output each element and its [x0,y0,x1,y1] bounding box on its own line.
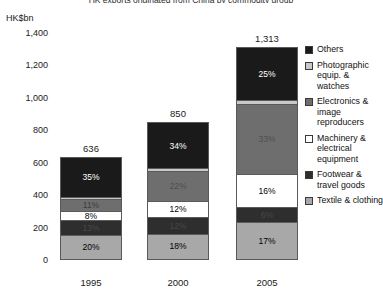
bar-segment[interactable]: 34% [148,123,208,169]
segment-percent-label: 12% [169,205,186,214]
bar-1995[interactable]: 35%11%8%13%20% [60,157,122,260]
segment-percent-label: 22% [169,182,186,191]
bar-segment[interactable]: 8% [61,212,121,221]
bar-segment[interactable]: 12% [148,202,208,218]
bar-2000[interactable]: 34%22%12%12%18% [147,122,209,260]
bar-segment[interactable]: 25% [237,48,297,101]
segment-percent-label: 33% [258,135,275,144]
legend-item[interactable]: Photographic equip. & watches [305,60,383,92]
chart-legend: OthersPhotographic equip. & watchesElect… [305,44,383,211]
bar-segment[interactable]: 33% [237,105,297,175]
segment-percent-label: 12% [169,222,186,231]
bar-total-label: 636 [60,143,122,154]
bar-total-label: 1,313 [236,33,298,44]
y-axis-tick-label: 1,400 [4,28,48,38]
y-axis-tick-label: 1,000 [4,93,48,103]
segment-percent-label: 20% [82,243,99,252]
stacked-bar-chart: HK exports originated from China by comm… [0,0,383,295]
segment-percent-label: 13% [82,224,99,233]
legend-swatch-icon [305,171,313,179]
bar-segment[interactable]: 6% [237,208,297,223]
legend-swatch-icon [305,62,313,70]
legend-item[interactable]: Footwear & travel goods [305,169,383,190]
x-axis-tick-1995: 1995 [60,277,122,288]
y-axis: 1,4001,2001,0008006004002000 [0,0,48,295]
bar-segment[interactable]: 13% [61,221,121,236]
chart-title: HK exports originated from China by comm… [36,0,346,3]
y-axis-tick-label: 400 [4,190,48,200]
bar-segment[interactable]: 17% [237,223,297,259]
y-axis-tick-label: 800 [4,125,48,135]
legend-item[interactable]: Electronics & image reproducers [305,96,383,128]
legend-item[interactable]: Machinery & electrical equipment [305,133,383,165]
bar-segment[interactable]: 22% [148,172,208,202]
segment-percent-label: 16% [258,187,275,196]
segment-percent-label: 6% [261,211,273,220]
legend-label: Machinery & electrical equipment [317,133,383,165]
legend-item[interactable]: Textile & clothing [305,195,383,206]
bar-segment[interactable]: 11% [61,200,121,212]
y-axis-tick-label: 600 [4,158,48,168]
segment-percent-label: 17% [258,237,275,246]
x-axis-tick-2005: 2005 [236,277,298,288]
legend-swatch-icon [305,98,313,106]
segment-percent-label: 34% [169,142,186,151]
segment-percent-label: 35% [82,173,99,182]
segment-percent-label: 8% [85,212,97,220]
legend-swatch-icon [305,46,313,54]
bar-segment[interactable]: 12% [148,218,208,234]
bar-segment[interactable]: 35% [61,158,121,198]
legend-swatch-icon [305,135,313,143]
x-axis-baseline [52,260,304,261]
legend-label: Textile & clothing [317,195,383,206]
segment-percent-label: 25% [258,70,275,79]
y-axis-tick-label: 200 [4,223,48,233]
bar-segment[interactable]: 16% [237,175,297,209]
segment-percent-label: 11% [83,201,99,210]
segment-percent-label: 18% [169,242,186,251]
legend-swatch-icon [305,197,313,205]
legend-label: Footwear & travel goods [317,169,383,190]
bar-total-label: 850 [147,108,209,119]
legend-label: Others [317,44,343,55]
legend-item[interactable]: Others [305,44,383,55]
bar-segment[interactable]: 18% [148,235,208,259]
x-axis-tick-2000: 2000 [147,277,209,288]
legend-label: Electronics & image reproducers [317,96,383,128]
bar-2005[interactable]: 25%33%16%6%17% [236,47,298,260]
legend-label: Photographic equip. & watches [317,60,383,92]
bar-segment[interactable]: 20% [61,236,121,259]
y-axis-tick-label: 0 [4,255,48,265]
y-axis-tick-label: 1,200 [4,60,48,70]
